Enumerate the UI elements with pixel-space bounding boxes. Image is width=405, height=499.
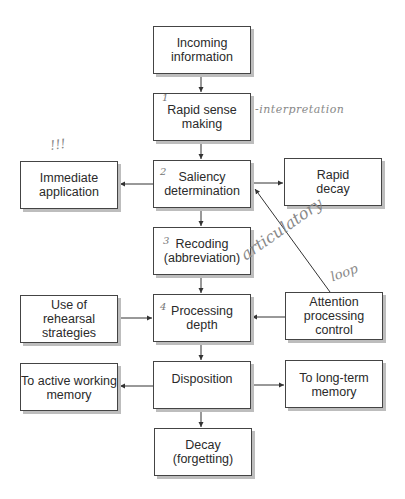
node-rapid-decay: Rapid decay [284, 158, 382, 206]
node-label: Attention processing control [304, 295, 364, 337]
node-to-active-working-memory: To active working memory [20, 363, 118, 411]
annotation-step-1: 1 [162, 92, 168, 103]
node-label: Immediate application [39, 171, 99, 199]
node-label: Recoding (abbreviation) [164, 237, 240, 265]
node-disposition: Disposition [153, 361, 251, 409]
annotation-step-2: 2 [160, 166, 166, 177]
node-immediate-application: Immediate application [20, 161, 118, 209]
annotation-step-3: 3 [163, 235, 169, 246]
node-label: Decay (forgetting) [173, 438, 233, 466]
node-label: Saliency determination [164, 170, 240, 198]
node-label: To active working memory [21, 374, 117, 402]
node-label: Use of rehearsal strategies [42, 298, 96, 340]
node-processing-depth: Processing depth [153, 294, 251, 342]
node-saliency-determination: Saliency determination [153, 160, 251, 208]
node-label: Rapid sense making [167, 103, 237, 131]
node-label: Disposition [171, 372, 232, 386]
annotation-exclamations: !!! [49, 136, 67, 153]
annotation-step-4: 4 [160, 301, 166, 312]
node-label: Processing depth [171, 304, 233, 332]
node-attention-processing-control: Attention processing control [285, 292, 383, 340]
node-decay-forgetting: Decay (forgetting) [154, 428, 252, 476]
node-label: Incoming information [171, 36, 233, 64]
node-label: Rapid decay [316, 168, 349, 196]
node-label: To long-term memory [299, 371, 368, 399]
node-to-long-term-memory: To long-term memory [285, 360, 383, 408]
annotation-interpretation: -interpretation [255, 103, 344, 116]
node-incoming-information: Incoming information [153, 26, 251, 74]
node-use-of-rehearsal-strategies: Use of rehearsal strategies [20, 295, 118, 343]
